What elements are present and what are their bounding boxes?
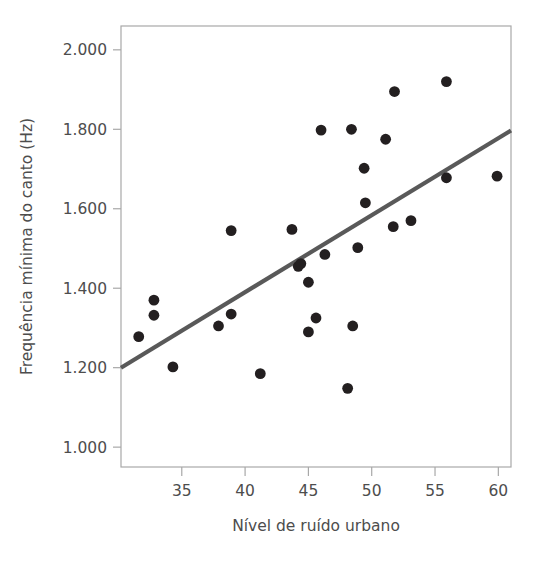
- x-tick-label: 60: [488, 482, 508, 500]
- y-tick-label: 2.000: [63, 41, 107, 59]
- data-point: [311, 313, 322, 324]
- y-axis-title: Frequência mínima do canto (Hz): [18, 118, 36, 375]
- data-point: [168, 361, 179, 372]
- data-point: [303, 277, 314, 288]
- x-axis-title: Nível de ruído urbano: [232, 517, 400, 535]
- x-tick-label: 35: [172, 482, 192, 500]
- x-tick-label: 50: [362, 482, 382, 500]
- data-point: [255, 368, 266, 379]
- data-point: [360, 197, 371, 208]
- plot-frame: [121, 26, 511, 467]
- x-tick-label: 40: [235, 482, 255, 500]
- data-point: [226, 225, 237, 236]
- data-point: [287, 224, 298, 235]
- data-point: [149, 295, 160, 306]
- data-point: [492, 171, 503, 182]
- data-point: [347, 321, 358, 332]
- x-tick-label: 55: [425, 482, 445, 500]
- y-tick-label: 1.000: [63, 439, 107, 457]
- data-point: [213, 321, 224, 332]
- data-point: [295, 258, 306, 269]
- data-point: [380, 134, 391, 145]
- data-point-group: [133, 76, 502, 394]
- chart-canvas: 1.0001.2001.4001.6001.8002.0003540455055…: [0, 0, 534, 565]
- data-point: [342, 383, 353, 394]
- data-point: [319, 249, 330, 260]
- y-tick-label: 1.200: [63, 359, 107, 377]
- data-point: [303, 327, 314, 338]
- data-point: [149, 310, 160, 321]
- data-point: [316, 125, 327, 136]
- y-axis: 1.0001.2001.4001.6001.8002.000: [63, 41, 121, 456]
- data-point: [352, 242, 363, 253]
- x-tick-label: 45: [299, 482, 319, 500]
- data-point: [133, 331, 144, 342]
- y-tick-label: 1.600: [63, 200, 107, 218]
- scatter-plot-figure: 1.0001.2001.4001.6001.8002.0003540455055…: [0, 0, 534, 565]
- data-point: [406, 215, 417, 226]
- data-point: [441, 172, 452, 183]
- y-tick-label: 1.400: [63, 280, 107, 298]
- data-point: [441, 76, 452, 87]
- trend-line: [121, 130, 511, 367]
- y-tick-label: 1.800: [63, 121, 107, 139]
- x-axis: 354045505560: [172, 467, 508, 500]
- data-point: [388, 221, 399, 232]
- data-point: [226, 309, 237, 320]
- data-point: [346, 124, 357, 135]
- data-point: [389, 86, 400, 97]
- data-point: [359, 163, 370, 174]
